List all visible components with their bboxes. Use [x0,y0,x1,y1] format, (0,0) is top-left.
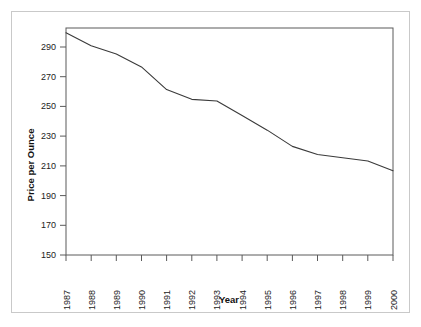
data-series-line [66,33,393,171]
plot-frame [66,28,393,255]
x-tick-label: 1997 [313,290,323,310]
line-chart: 150 170 190 210 230 250 270 290 [0,0,421,327]
x-tick-label: 1991 [162,290,172,310]
x-tick-label: 1989 [112,290,122,310]
x-axis-title: Year [219,294,239,305]
x-tick-label: 2000 [389,290,399,310]
plot-area-rect [66,28,393,255]
x-tick-label: 1996 [288,290,298,310]
x-tick-label: 1987 [62,290,72,310]
x-tick-label: 1999 [363,290,373,310]
x-axis-ticks [66,255,393,261]
x-tick-label: 1988 [87,290,97,310]
x-tick-label: 1992 [187,290,197,310]
y-tick-label: 170 [41,220,56,230]
y-tick-label: 210 [41,161,56,171]
x-tick-label: 1998 [338,290,348,310]
y-tick-label: 190 [41,191,56,201]
y-axis-title: Price per Ounce [25,129,36,202]
x-tick-label: 1995 [263,290,273,310]
y-tick-label: 250 [41,101,56,111]
y-tick-label: 150 [41,250,56,260]
y-tick-label: 230 [41,131,56,141]
y-axis-ticks [60,47,66,255]
x-tick-label: 1994 [238,290,248,310]
y-tick-label: 270 [41,72,56,82]
x-tick-label: 1990 [137,290,147,310]
y-tick-label: 290 [41,42,56,52]
figure-container: 150 170 190 210 230 250 270 290 [0,0,421,327]
y-axis-tick-labels: 150 170 190 210 230 250 270 290 [41,42,56,260]
